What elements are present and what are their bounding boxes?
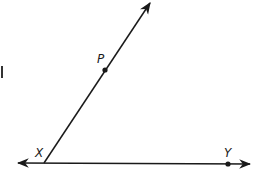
ray-xp [44, 3, 150, 163]
point-y-label: Y [224, 146, 233, 160]
angle-diagram: X P Y [0, 0, 259, 180]
point-y-dot [225, 161, 230, 166]
point-x-label: X [34, 146, 44, 160]
point-p-label: P [97, 52, 105, 66]
point-p-dot [102, 67, 107, 72]
line-xy [18, 163, 250, 164]
